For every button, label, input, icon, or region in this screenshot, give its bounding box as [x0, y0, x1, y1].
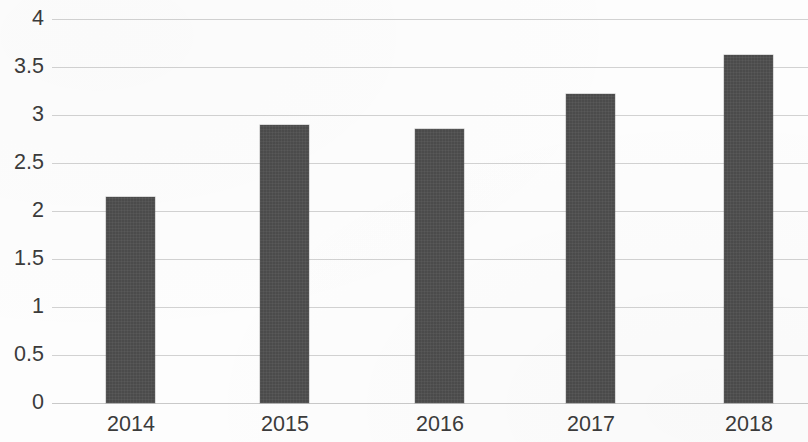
- bar-2016: [415, 129, 464, 403]
- bar-2015: [260, 125, 309, 403]
- x-axis-tick-label: 2017: [541, 414, 641, 436]
- bar-2017: [566, 94, 615, 403]
- bar-2014: [106, 197, 155, 403]
- plot-area: [0, 0, 808, 442]
- bar-2018: [724, 55, 773, 403]
- x-axis-tick-label: 2018: [699, 414, 799, 436]
- x-axis-tick-label: 2015: [235, 414, 335, 436]
- bar-chart: 00.511.522.533.54 20142015201620172018: [0, 0, 808, 442]
- x-axis-tick-label: 2014: [81, 414, 181, 436]
- x-axis-tick-label: 2016: [390, 414, 490, 436]
